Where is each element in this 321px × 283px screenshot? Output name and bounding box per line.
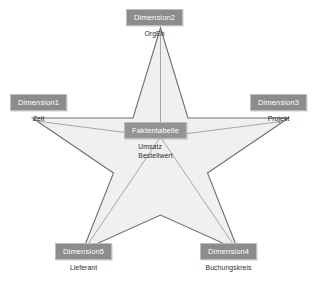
dimension-2-label[interactable]: Dimension2 <box>126 9 183 26</box>
node-dimension-5[interactable]: Dimension5 Lieferant <box>55 243 112 272</box>
attribute-item: OrgEh <box>144 29 164 38</box>
dimension-3-label[interactable]: Dimension3 <box>250 94 307 111</box>
dimension-5-attributes: Lieferant <box>70 263 97 272</box>
node-dimension-1[interactable]: Dimension1 Zeit <box>10 94 67 123</box>
attribute-item: Buchungskreis <box>206 263 252 272</box>
dimension-1-attributes: Zeit <box>33 114 45 123</box>
star-schema-diagram: Dimension2 OrgEh Dimension1 Zeit Dimensi… <box>0 0 321 283</box>
dimension-2-attributes: OrgEh <box>144 29 164 38</box>
node-dimension-3[interactable]: Dimension3 Projekt <box>250 94 307 123</box>
attribute-item: Umsatz <box>138 142 162 151</box>
dimension-4-attributes: Buchungskreis <box>206 263 252 272</box>
fact-table-label[interactable]: Faktentabelle <box>124 122 187 139</box>
attribute-item: Bestellwert <box>138 151 172 160</box>
attribute-item: Zeit <box>33 114 45 123</box>
attribute-item: Projekt <box>268 114 290 123</box>
fact-table-attributes: Umsatz Bestellwert <box>138 142 172 160</box>
node-fact-table[interactable]: Faktentabelle Umsatz Bestellwert <box>124 122 187 160</box>
dimension-4-label[interactable]: Dimension4 <box>200 243 257 260</box>
dimension-3-attributes: Projekt <box>268 114 290 123</box>
dimension-5-label[interactable]: Dimension5 <box>55 243 112 260</box>
attribute-item: Lieferant <box>70 263 97 272</box>
node-dimension-2[interactable]: Dimension2 OrgEh <box>126 9 183 38</box>
dimension-1-label[interactable]: Dimension1 <box>10 94 67 111</box>
node-dimension-4[interactable]: Dimension4 Buchungskreis <box>200 243 257 272</box>
